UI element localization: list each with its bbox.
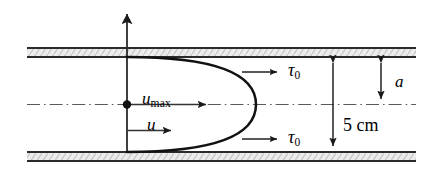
u-label: u (147, 116, 156, 133)
diameter-label: 5 cm (343, 116, 379, 134)
radius-label: a (395, 73, 404, 90)
bottom-wall (27, 152, 416, 161)
u-max-symbol: u (142, 89, 151, 108)
u-max-subscript: max (151, 97, 171, 109)
tau-bottom-label: τ0 (288, 128, 300, 148)
u-max-label: umax (142, 90, 171, 109)
top-wall (27, 48, 416, 57)
tau-top-label: τ0 (288, 61, 300, 81)
diagram-canvas (0, 0, 434, 182)
tau-top-subscript: 0 (294, 69, 300, 81)
pipe-flow-diagram: umax u τ0 τ0 a 5 cm (0, 0, 434, 182)
tau-bottom-subscript: 0 (294, 136, 300, 148)
